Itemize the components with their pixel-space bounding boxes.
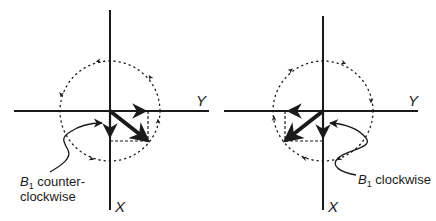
left-field-label-line2: clockwise: [20, 189, 76, 204]
right-field-label-line1: clockwise: [372, 172, 431, 187]
right-field-symbol: B: [358, 172, 367, 187]
right-resultant-arrow: [286, 111, 323, 140]
rotating-field-diagram: Y X B1 counter- clockwise Y X: [0, 0, 436, 221]
right-circle-arrow-top-icon: [338, 61, 344, 63]
right-field-label: B1 clockwise: [358, 172, 431, 189]
right-panel: Y X B1 clockwise: [224, 16, 431, 215]
left-y-axis-label: Y: [196, 92, 207, 109]
right-circle-arrow-topleft-icon: [287, 70, 291, 73]
left-circle-arrow-topright-icon: [150, 77, 152, 80]
right-x-axis-label: X: [327, 198, 339, 215]
left-field-symbol: B: [20, 174, 29, 189]
left-resultant-arrow: [110, 111, 147, 140]
left-circle-arrow-top-icon: [98, 60, 104, 61]
left-panel: Y X B1 counter- clockwise: [14, 10, 209, 215]
left-circle-arrow-left-icon: [61, 90, 62, 95]
right-y-axis-label: Y: [408, 92, 419, 109]
left-x-axis-label: X: [114, 198, 126, 215]
left-field-label-line1: counter-: [34, 174, 85, 189]
right-label-leader: [330, 123, 367, 175]
left-circle-arrow-bottom-icon: [86, 157, 92, 159]
